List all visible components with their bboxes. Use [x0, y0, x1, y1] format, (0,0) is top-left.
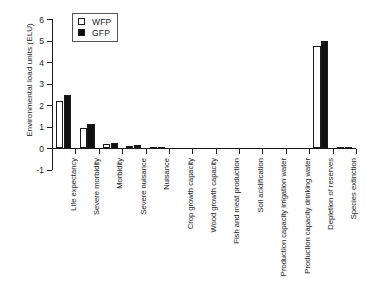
x-axis-category-label: Severe nuisance — [138, 158, 149, 300]
y-axis-tick-label: 5 — [39, 36, 44, 46]
x-axis-tick — [169, 149, 170, 154]
y-axis-tick: -1 — [47, 170, 52, 171]
y-axis-tick: 1 — [47, 127, 52, 128]
y-axis-tick-label: -1 — [36, 165, 44, 175]
bar-gfp-4 — [158, 147, 165, 149]
x-axis-category-label: Fish and meat production — [231, 158, 242, 300]
x-axis-category-label: Depletion of reserves — [325, 158, 336, 300]
bar-wfp-4 — [150, 147, 157, 149]
y-axis-tick: 2 — [47, 105, 52, 106]
y-axis-tick: 5 — [47, 41, 52, 42]
y-axis-tick-label: 6 — [39, 15, 44, 25]
x-axis-category-label: Species extinction — [348, 158, 359, 300]
bar-gfp-0 — [64, 95, 71, 148]
x-axis-category-label: Production capacity drinking water — [302, 158, 313, 300]
x-axis-tick — [192, 149, 193, 154]
y-axis-tick: 3 — [47, 84, 52, 85]
x-axis-category-label: Soil acidification — [255, 158, 266, 300]
plot-area: 6543210-1 Life expectancySevere morbidit… — [52, 19, 356, 170]
y-axis-tick: 6 — [47, 19, 52, 20]
x-axis-line — [52, 148, 356, 149]
x-axis-category-label: Nuisance — [161, 158, 172, 300]
bar-wfp-2 — [103, 144, 110, 148]
x-axis-tick — [239, 149, 240, 154]
y-axis-title: Environmental load units (ELU) — [22, 0, 38, 160]
x-axis-tick — [262, 149, 263, 154]
bar-gfp-2 — [111, 143, 118, 148]
bar-wfp-11 — [313, 46, 320, 148]
y-axis-tick-label: 4 — [39, 58, 44, 68]
y-axis-tick-label: 2 — [39, 101, 44, 111]
x-axis-tick — [122, 149, 123, 154]
bar-gfp-12 — [345, 147, 352, 149]
x-axis-category-label: Production capacity irrigation water — [278, 158, 289, 300]
x-axis-category-label: Severe morbidity — [91, 158, 102, 300]
x-axis-category-label: Wood growth capacity — [208, 158, 219, 300]
x-axis-category-label: Life expectancy — [68, 158, 79, 300]
x-axis-tick — [75, 149, 76, 154]
y-axis-tick-label: 1 — [39, 122, 44, 132]
bar-gfp-11 — [321, 41, 328, 149]
x-axis-tick — [356, 149, 357, 154]
bar-wfp-0 — [56, 101, 63, 148]
x-axis-tick — [99, 149, 100, 154]
x-axis-tick — [146, 149, 147, 154]
bar-wfp-3 — [126, 146, 133, 148]
bar-wfp-12 — [337, 147, 344, 149]
x-axis-tick — [333, 149, 334, 154]
x-axis-category-label: Crop growth capacity — [185, 158, 196, 300]
x-axis-tick — [286, 149, 287, 154]
y-axis-tick: 4 — [47, 62, 52, 63]
bar-gfp-1 — [87, 124, 94, 148]
bar-wfp-1 — [80, 128, 87, 148]
bar-chart: Environmental load units (ELU) WFP GFP 6… — [0, 0, 374, 300]
x-axis-tick — [216, 149, 217, 154]
x-axis-tick — [309, 149, 310, 154]
y-axis-tick-label: 3 — [39, 79, 44, 89]
x-axis-tick — [52, 149, 53, 154]
bar-gfp-3 — [134, 145, 141, 148]
y-axis-tick-label: 0 — [39, 144, 44, 154]
x-axis-category-label: Morbidity — [114, 158, 125, 300]
